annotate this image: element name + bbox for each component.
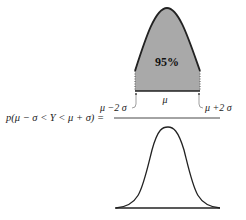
- right-pointer-line: [199, 94, 203, 108]
- right-bound-label: μ +2 σ: [204, 102, 233, 113]
- mu-label: μ: [161, 94, 167, 105]
- probability-diagram: 95% μ μ −2 σ μ +2 σ p(μ − σ < Y < μ + σ)…: [0, 0, 246, 220]
- bell-curve: [116, 127, 220, 208]
- area-percentage-label: 95%: [155, 55, 179, 69]
- probability-formula: p(μ − σ < Y < μ + σ) =: [5, 112, 104, 124]
- full-normal-curve-figure: [115, 127, 220, 208]
- left-pointer-line: [132, 94, 136, 108]
- shaded-region-figure: 95% μ μ −2 σ μ +2 σ: [99, 8, 233, 113]
- shaded-area: [135, 8, 200, 91]
